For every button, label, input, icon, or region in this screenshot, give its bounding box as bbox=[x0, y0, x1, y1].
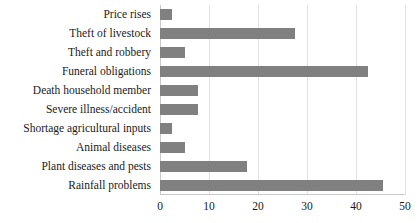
bar-row bbox=[160, 100, 405, 119]
category-label: Theft of livestock bbox=[69, 24, 151, 43]
category-label: Rainfall problems bbox=[68, 176, 151, 195]
bar-row bbox=[160, 119, 405, 138]
bar-row bbox=[160, 176, 405, 195]
x-tick-label: 40 bbox=[350, 198, 362, 214]
x-tick-label: 50 bbox=[399, 198, 411, 214]
x-tick-label: 10 bbox=[203, 198, 215, 214]
category-label: Severe illness/accident bbox=[46, 100, 151, 119]
category-label: Shortage agricultural inputs bbox=[23, 119, 151, 138]
bar-row bbox=[160, 157, 405, 176]
bar-row bbox=[160, 62, 405, 81]
x-tick-label: 0 bbox=[157, 198, 163, 214]
bar bbox=[160, 85, 198, 96]
x-tick-label: 20 bbox=[252, 198, 264, 214]
bar-series bbox=[160, 5, 405, 195]
category-label: Funeral obligations bbox=[62, 62, 151, 81]
bar-chart: Price risesTheft of livestockTheft and r… bbox=[0, 0, 419, 223]
bar bbox=[160, 9, 172, 20]
bar-row bbox=[160, 138, 405, 157]
bar bbox=[160, 161, 247, 172]
bar bbox=[160, 180, 383, 191]
x-tick-label: 30 bbox=[301, 198, 313, 214]
category-label: Theft and robbery bbox=[68, 43, 151, 62]
category-label: Plant diseases and pests bbox=[41, 157, 151, 176]
category-axis-labels: Price risesTheft of livestockTheft and r… bbox=[0, 5, 155, 195]
gridline-50 bbox=[405, 5, 406, 195]
bar-row bbox=[160, 24, 405, 43]
bar-row bbox=[160, 5, 405, 24]
bar bbox=[160, 104, 198, 115]
bar-row bbox=[160, 43, 405, 62]
bar-row bbox=[160, 81, 405, 100]
bar bbox=[160, 66, 368, 77]
x-axis-tick-labels: 01020304050 bbox=[160, 198, 405, 218]
bar bbox=[160, 142, 185, 153]
plot-area bbox=[160, 5, 405, 195]
category-label: Death household member bbox=[33, 81, 151, 100]
bar bbox=[160, 28, 295, 39]
category-label: Animal diseases bbox=[76, 138, 151, 157]
bar bbox=[160, 47, 185, 58]
bar bbox=[160, 123, 172, 134]
category-label: Price rises bbox=[103, 5, 151, 24]
